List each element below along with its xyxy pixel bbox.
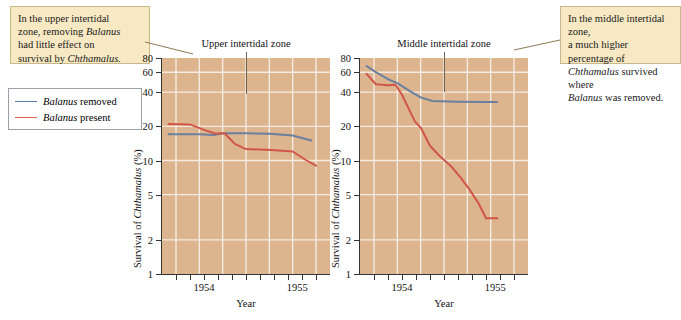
y-tick-mark: [354, 92, 359, 93]
y-tick-mark: [156, 72, 161, 73]
legend-item-balanus-present: Balanus present: [15, 109, 135, 125]
y-tick-label: 10: [143, 155, 154, 166]
chart-title-leader-icon: [444, 52, 445, 92]
x-tick-mark: [190, 275, 191, 280]
y-tick-label: 1: [346, 269, 351, 280]
y-tick-label: 5: [148, 189, 153, 200]
y-tick-mark: [156, 195, 161, 196]
callout-line-1: In the middle intertidal zone,: [568, 12, 673, 38]
x-tick-mark: [444, 275, 445, 280]
y-tick-mark: [156, 126, 161, 127]
chart-title: Middle intertidal zone: [397, 38, 490, 49]
x-tick-mark: [388, 275, 389, 280]
y-axis-line: [359, 58, 360, 274]
x-axis-title: Year: [434, 298, 453, 309]
y-tick-mark: [354, 240, 359, 241]
y-tick-mark: [354, 58, 359, 59]
callout-middle-zone: In the middle intertidal zone, a much hi…: [560, 6, 681, 64]
y-tick-mark: [354, 126, 359, 127]
chart-title: Upper intertidal zone: [201, 38, 290, 49]
x-tick-mark: [374, 275, 375, 280]
y-axis-title: Survival of Chthamalus (%): [330, 149, 341, 268]
chart-panel-upper-intertidal: 125102040608019541955YearSurvival of Cht…: [120, 0, 350, 320]
y-tick-label: 60: [341, 67, 352, 78]
x-tick-mark: [218, 275, 219, 280]
y-axis-title: Survival of Chthamalus (%): [132, 149, 143, 268]
y-tick-mark: [354, 161, 359, 162]
y-tick-label: 20: [341, 121, 352, 132]
legend-swatch-red-icon: [15, 117, 37, 118]
y-axis-line: [161, 58, 162, 274]
x-tick-mark: [458, 275, 459, 280]
legend-label: Balanus removed: [43, 96, 117, 107]
y-tick-label: 2: [346, 234, 351, 245]
x-tick-label: 1954: [194, 282, 215, 293]
y-tick-label: 10: [341, 155, 352, 166]
x-tick-mark: [500, 275, 501, 280]
x-tick-mark: [288, 275, 289, 280]
y-tick-mark: [156, 58, 161, 59]
x-tick-label: 1955: [485, 282, 506, 293]
data-series-line: [367, 74, 498, 218]
chart-title-leader-icon: [246, 52, 247, 94]
y-tick-mark: [354, 274, 359, 275]
y-tick-mark: [156, 161, 161, 162]
y-tick-mark: [354, 72, 359, 73]
callout-line-3: Chthamalus survived where: [568, 65, 673, 91]
y-tick-label: 80: [341, 53, 352, 64]
x-tick-mark: [246, 275, 247, 280]
x-tick-mark: [472, 275, 473, 280]
x-tick-mark: [176, 275, 177, 280]
x-tick-mark: [274, 275, 275, 280]
callout-line-4: Balanus was removed.: [568, 91, 673, 104]
y-tick-label: 2: [148, 234, 153, 245]
data-series-line: [367, 66, 498, 102]
data-series-line: [169, 133, 312, 140]
x-tick-mark: [486, 275, 487, 280]
y-tick-label: 60: [143, 67, 154, 78]
y-tick-mark: [156, 240, 161, 241]
x-tick-label: 1955: [287, 282, 308, 293]
y-tick-label: 20: [143, 121, 154, 132]
x-tick-mark: [260, 275, 261, 280]
x-tick-mark: [430, 275, 431, 280]
x-tick-mark: [402, 275, 403, 280]
x-tick-mark: [302, 275, 303, 280]
y-tick-mark: [156, 274, 161, 275]
legend-item-balanus-removed: Balanus removed: [15, 93, 135, 109]
y-tick-label: 40: [143, 87, 154, 98]
data-series-line: [169, 124, 316, 166]
y-tick-label: 5: [346, 189, 351, 200]
y-tick-mark: [354, 195, 359, 196]
x-tick-mark: [204, 275, 205, 280]
x-tick-label: 1954: [392, 282, 413, 293]
y-tick-mark: [156, 92, 161, 93]
x-tick-mark: [232, 275, 233, 280]
y-tick-label: 80: [143, 53, 154, 64]
x-axis-title: Year: [236, 298, 255, 309]
chart-panel-middle-intertidal: 125102040608019541955YearSurvival of Cht…: [318, 0, 548, 320]
x-tick-mark: [514, 275, 515, 280]
callout-line-2: a much higher percentage of: [568, 38, 673, 64]
y-tick-label: 40: [341, 87, 352, 98]
x-tick-mark: [316, 275, 317, 280]
legend-label: Balanus present: [43, 112, 110, 123]
x-tick-mark: [416, 275, 417, 280]
legend-swatch-blue-icon: [15, 101, 37, 102]
y-tick-label: 1: [148, 269, 153, 280]
